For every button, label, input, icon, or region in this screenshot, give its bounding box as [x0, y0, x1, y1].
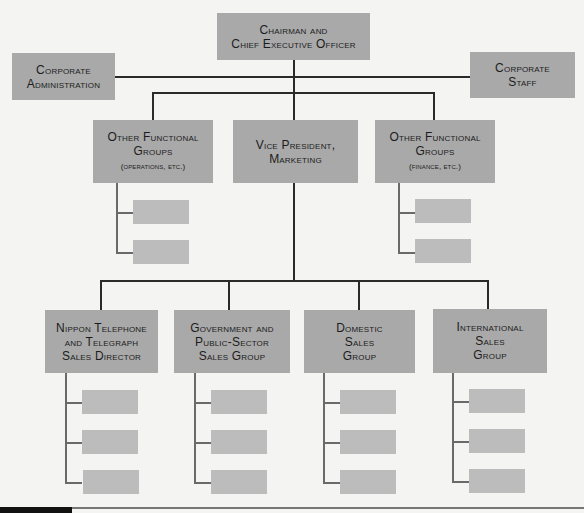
tier3-line3: Sales Director — [62, 349, 141, 363]
connector-tier3-4 — [487, 280, 489, 310]
sub-unit-box — [469, 429, 525, 453]
tier2-line2: Groups — [416, 144, 455, 158]
bottom-rule — [72, 507, 584, 509]
sub-unit-box — [133, 200, 189, 224]
sub-unit-box — [415, 239, 471, 263]
sub-unit-box — [340, 430, 396, 454]
tier2-note: (operations, etc.) — [121, 161, 186, 173]
sub-connector — [194, 442, 211, 444]
connector-tier3-3 — [358, 280, 360, 310]
international-sales-group-box: International Sales Group — [433, 309, 547, 373]
corporate-staff-line2: Staff — [508, 75, 536, 89]
corporate-administration-line1: Corporate — [36, 63, 91, 77]
tier3-line2: and Telegraph — [65, 335, 139, 349]
vice-president-marketing-box: Vice President, Marketing — [233, 120, 358, 183]
chairman-ceo-box: Chairman and Chief Executive Officer — [217, 13, 370, 60]
sub-connector — [116, 252, 133, 254]
other-functional-groups-finance-box: Other Functional Groups (finance, etc.) — [375, 120, 495, 183]
connector-staff-bar — [115, 76, 470, 78]
connector-tier2-left — [152, 92, 154, 120]
tier2-line2: Groups — [134, 144, 173, 158]
connector-tier3-2 — [228, 280, 230, 310]
sub-unit-box — [82, 430, 138, 454]
connector-tier2-bar — [152, 92, 434, 94]
tier3-line2: Sales — [345, 335, 374, 349]
corporate-staff-box: Corporate Staff — [470, 52, 575, 98]
tier3-line1: Domestic — [336, 321, 383, 335]
sub-connector — [452, 441, 469, 443]
tier3-line3: Group — [343, 349, 376, 363]
sub-connector — [398, 212, 415, 214]
bottom-black-bar — [0, 507, 72, 513]
sub-unit-box — [469, 469, 525, 493]
sub-connector — [194, 482, 211, 484]
sub-connector — [116, 212, 133, 214]
sub-connector — [323, 442, 340, 444]
chairman-ceo-line1: Chairman and — [259, 23, 327, 37]
sub-connector — [65, 442, 82, 444]
corporate-administration-box: Corporate Administration — [12, 53, 115, 100]
domestic-sales-group-box: Domestic Sales Group — [304, 310, 415, 373]
sub-connector — [398, 252, 415, 254]
sub-connector — [452, 401, 469, 403]
corporate-staff-line1: Corporate — [495, 61, 550, 75]
tier3-line3: Sales Group — [199, 349, 265, 363]
sub-connector — [194, 402, 211, 404]
corporate-administration-line2: Administration — [27, 77, 100, 91]
tier3-line1: International — [456, 320, 523, 334]
connector-tier3-bar — [100, 280, 488, 282]
sub-connector — [65, 402, 82, 404]
connector-vp-down — [293, 183, 295, 280]
sub-connector — [323, 373, 325, 483]
sub-unit-box — [340, 390, 396, 414]
sub-unit-box — [469, 389, 525, 413]
sub-connector — [452, 481, 469, 483]
sub-connector — [323, 482, 340, 484]
tier2-line1: Vice President, — [256, 138, 335, 152]
sub-unit-box — [211, 470, 267, 494]
sub-unit-box — [415, 199, 471, 223]
sub-unit-box — [211, 430, 267, 454]
sub-connector — [65, 373, 67, 483]
sub-connector — [452, 373, 454, 483]
sub-connector — [65, 482, 82, 484]
tier3-line2: Public-Sector — [195, 335, 269, 349]
sub-unit-box — [133, 240, 189, 264]
tier2-line1: Other Functional — [107, 130, 198, 144]
sub-unit-box — [83, 470, 139, 494]
tier3-line2: Sales — [475, 334, 504, 348]
other-functional-groups-operations-box: Other Functional Groups (operations, etc… — [93, 120, 213, 183]
sub-connector — [194, 373, 196, 483]
sub-unit-box — [340, 470, 396, 494]
tier2-line1: Other Functional — [389, 130, 480, 144]
tier2-line2: Marketing — [269, 152, 322, 166]
tier2-note: (finance, etc.) — [409, 161, 461, 173]
sub-unit-box — [211, 390, 267, 414]
connector-tier3-1 — [100, 280, 102, 310]
connector-ceo-down — [293, 60, 295, 120]
tier3-line1: Government and — [190, 321, 273, 335]
sub-connector — [323, 402, 340, 404]
connector-tier2-right — [433, 92, 435, 120]
sub-connector — [116, 183, 118, 253]
tier3-line1: Nippon Telephone — [56, 321, 147, 335]
sub-unit-box — [82, 390, 138, 414]
chairman-ceo-line2: Chief Executive Officer — [231, 37, 355, 51]
ntt-sales-director-box: Nippon Telephone and Telegraph Sales Dir… — [45, 310, 158, 373]
tier3-line3: Group — [473, 348, 506, 362]
sub-connector — [398, 183, 400, 253]
government-public-sector-sales-box: Government and Public-Sector Sales Group — [174, 310, 290, 373]
